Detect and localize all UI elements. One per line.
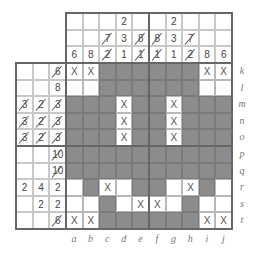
cell-fq[interactable]: [149, 163, 166, 180]
cell-fo[interactable]: [149, 129, 166, 146]
cell-ap[interactable]: [66, 146, 83, 163]
cell-ek[interactable]: [132, 63, 149, 80]
cell-bl[interactable]: [83, 80, 100, 97]
cell-gt[interactable]: [166, 212, 183, 229]
cell-em[interactable]: [132, 96, 149, 113]
cell-bs[interactable]: [83, 196, 100, 213]
cell-cr[interactable]: X: [99, 179, 116, 196]
cell-jr[interactable]: [215, 179, 232, 196]
cell-ip[interactable]: [199, 146, 216, 163]
cell-fs[interactable]: X: [149, 196, 166, 213]
cell-co[interactable]: [99, 129, 116, 146]
cell-hp[interactable]: [182, 146, 199, 163]
cell-dp[interactable]: [116, 146, 133, 163]
cell-el[interactable]: [132, 80, 149, 97]
cell-ep[interactable]: [132, 146, 149, 163]
cell-aq[interactable]: [66, 163, 83, 180]
cell-fk[interactable]: [149, 63, 166, 80]
cell-jm[interactable]: [215, 96, 232, 113]
cell-dn[interactable]: X: [116, 113, 133, 130]
cell-cs[interactable]: [99, 196, 116, 213]
cell-bn[interactable]: [83, 113, 100, 130]
cell-dr[interactable]: [116, 179, 133, 196]
cell-dq[interactable]: [116, 163, 133, 180]
cell-im[interactable]: [199, 96, 216, 113]
cell-an[interactable]: [66, 113, 83, 130]
cell-eq[interactable]: [132, 163, 149, 180]
cell-ak[interactable]: X: [66, 63, 83, 80]
cell-ar[interactable]: [66, 179, 83, 196]
cell-jo[interactable]: [215, 129, 232, 146]
cell-ds[interactable]: [116, 196, 133, 213]
cell-dl[interactable]: [116, 80, 133, 97]
cell-gn[interactable]: X: [166, 113, 183, 130]
cell-en[interactable]: [132, 113, 149, 130]
cell-bp[interactable]: [83, 146, 100, 163]
cell-cn[interactable]: [99, 113, 116, 130]
cell-go[interactable]: X: [166, 129, 183, 146]
cell-fl[interactable]: [149, 80, 166, 97]
cell-es[interactable]: X: [132, 196, 149, 213]
cell-hl[interactable]: [182, 80, 199, 97]
cell-in[interactable]: [199, 113, 216, 130]
cell-hm[interactable]: [182, 96, 199, 113]
cell-cm[interactable]: [99, 96, 116, 113]
cell-ao[interactable]: [66, 129, 83, 146]
cell-iq[interactable]: [199, 163, 216, 180]
cell-dk[interactable]: [116, 63, 133, 80]
cell-jt[interactable]: X: [215, 212, 232, 229]
cell-at[interactable]: X: [66, 212, 83, 229]
cell-bt[interactable]: X: [83, 212, 100, 229]
cell-dt[interactable]: [116, 212, 133, 229]
cell-br[interactable]: [83, 179, 100, 196]
cell-gk[interactable]: [166, 63, 183, 80]
cell-ho[interactable]: [182, 129, 199, 146]
cell-er[interactable]: [132, 179, 149, 196]
cell-gq[interactable]: [166, 163, 183, 180]
cell-do[interactable]: X: [116, 129, 133, 146]
cell-jp[interactable]: [215, 146, 232, 163]
cell-fm[interactable]: [149, 96, 166, 113]
cell-gm[interactable]: X: [166, 96, 183, 113]
cell-cp[interactable]: [99, 146, 116, 163]
cell-cq[interactable]: [99, 163, 116, 180]
cell-hk[interactable]: [182, 63, 199, 80]
cell-ir[interactable]: [199, 179, 216, 196]
cell-gl[interactable]: [166, 80, 183, 97]
cell-hq[interactable]: [182, 163, 199, 180]
cell-bq[interactable]: [83, 163, 100, 180]
cell-jl[interactable]: [215, 80, 232, 97]
cell-js[interactable]: [215, 196, 232, 213]
cell-gs[interactable]: [166, 196, 183, 213]
cell-ct[interactable]: [99, 212, 116, 229]
cell-it[interactable]: X: [199, 212, 216, 229]
cell-hn[interactable]: [182, 113, 199, 130]
cell-bk[interactable]: X: [83, 63, 100, 80]
cell-jq[interactable]: [215, 163, 232, 180]
cell-is[interactable]: [199, 196, 216, 213]
cell-fp[interactable]: [149, 146, 166, 163]
cell-ft[interactable]: [149, 212, 166, 229]
cell-ik[interactable]: X: [199, 63, 216, 80]
cell-jk[interactable]: X: [215, 63, 232, 80]
cell-bm[interactable]: [83, 96, 100, 113]
cell-bo[interactable]: [83, 129, 100, 146]
cell-as[interactable]: [66, 196, 83, 213]
cell-al[interactable]: [66, 80, 83, 97]
cell-cl[interactable]: [99, 80, 116, 97]
cell-dm[interactable]: X: [116, 96, 133, 113]
cell-io[interactable]: [199, 129, 216, 146]
cell-gr[interactable]: [166, 179, 183, 196]
cell-hs[interactable]: [182, 196, 199, 213]
cell-eo[interactable]: [132, 129, 149, 146]
cell-gp[interactable]: [166, 146, 183, 163]
cell-ck[interactable]: [99, 63, 116, 80]
cell-et[interactable]: [132, 212, 149, 229]
cell-hr[interactable]: X: [182, 179, 199, 196]
cell-fr[interactable]: [149, 179, 166, 196]
cell-jn[interactable]: [215, 113, 232, 130]
cell-ht[interactable]: [182, 212, 199, 229]
cell-fn[interactable]: [149, 113, 166, 130]
cell-il[interactable]: [199, 80, 216, 97]
cell-am[interactable]: [66, 96, 83, 113]
